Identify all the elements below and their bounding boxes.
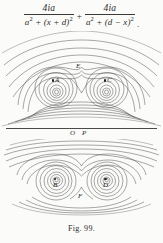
point-label-e-text: E <box>76 62 80 70</box>
formula-term-1-denominator-rest-exponent: 2 <box>69 15 72 22</box>
formula-term-1: 4ia a2 + (x + d)2 <box>24 3 74 28</box>
axis-label-point: P <box>82 129 86 137</box>
point-label-a: A <box>52 76 59 84</box>
formula-term-2-numerator: 4ia <box>101 3 120 14</box>
formula-term-1-denominator-rest: + (x + d) <box>33 17 70 27</box>
axis: O P <box>0 126 163 140</box>
lower-field-diagram-streamlines <box>0 139 163 217</box>
point-label-b: B <box>53 178 57 189</box>
point-label-e: E <box>76 62 80 70</box>
formula-expression: 4ia a2 + (x + d)2 + 4ia a2 + (d − x)2 . <box>0 0 163 31</box>
formula-operator: + <box>76 11 83 21</box>
point-label-d: D <box>103 178 108 189</box>
formula-term-2-denominator-rest: + (d − x) <box>94 17 131 27</box>
formula-term-1-numerator: 4ia <box>39 3 58 14</box>
formula-term-2-denominator-rest-exponent: 2 <box>131 15 134 22</box>
point-label-d-text: D <box>103 181 108 189</box>
upper-field-diagram-streamlines <box>0 31 163 128</box>
formula-term-2: 4ia a2 + (d − x)2 <box>85 3 135 28</box>
figure-page: 4ia a2 + (x + d)2 + 4ia a2 + (d − x)2 . <box>0 0 163 243</box>
figure-caption: Fig. 99. <box>0 224 163 233</box>
formula-term-1-denominator: a2 + (x + d)2 <box>24 15 74 28</box>
point-label-b-text: B <box>53 181 57 189</box>
upper-field-diagram <box>0 31 163 128</box>
formula-end-punctuation: . <box>137 19 139 31</box>
axis-label-origin: O <box>70 129 75 137</box>
point-label-a-text: A <box>55 76 59 84</box>
point-label-f-text: F <box>78 192 82 200</box>
formula-term-2-denominator: a2 + (d − x)2 <box>85 15 135 28</box>
point-label-f: F <box>78 192 82 200</box>
lower-field-diagram <box>0 139 163 217</box>
point-label-c-text: C <box>107 76 112 84</box>
point-label-c: C <box>104 76 112 84</box>
